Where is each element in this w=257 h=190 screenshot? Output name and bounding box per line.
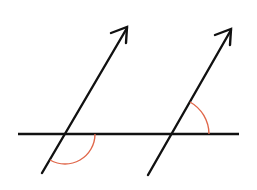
parallel-lines-diagram — [0, 0, 257, 190]
right-angle-arc — [190, 102, 209, 134]
diagram-canvas — [0, 0, 257, 190]
left-arrow-shaft — [42, 28, 127, 173]
right-arrow-shaft — [148, 30, 231, 175]
left-arrow — [42, 27, 127, 173]
right-arrow — [148, 29, 231, 175]
